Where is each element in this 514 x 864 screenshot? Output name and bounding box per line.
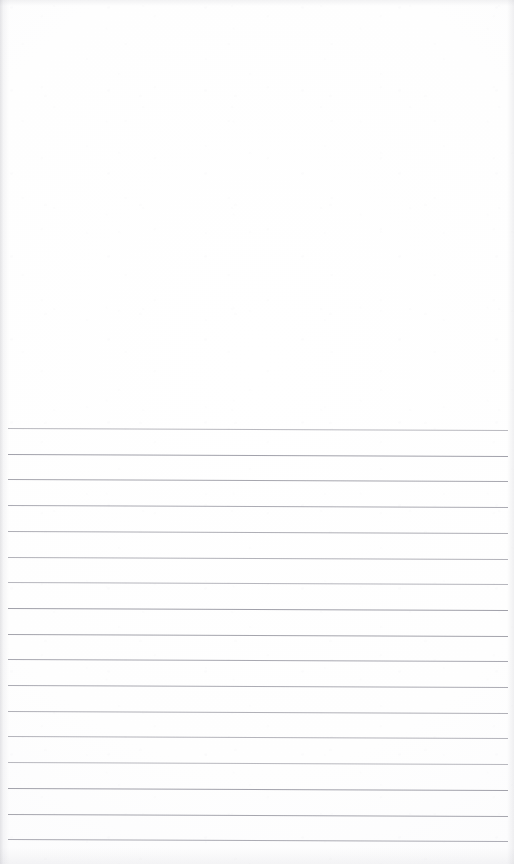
scan-edge-shadow-left <box>0 0 9 864</box>
scanned-page <box>0 0 514 864</box>
scan-noise-texture <box>0 0 514 864</box>
scan-edge-shadow-right <box>507 0 514 864</box>
scan-edge-shadow-top <box>0 0 514 6</box>
scan-edge-shadow-bottom <box>0 848 514 864</box>
